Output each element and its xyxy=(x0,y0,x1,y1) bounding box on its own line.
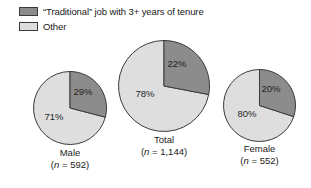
pie-caption-male-title: Male xyxy=(60,147,81,158)
legend-swatch-other xyxy=(19,22,38,31)
legend-swatch-traditional xyxy=(19,7,38,16)
pie-caption-total-n-value: = 1,144) xyxy=(149,146,187,157)
pie-label-total-traditional: 22% xyxy=(167,58,187,69)
pie-caption-female-title: Female xyxy=(244,143,276,154)
pie-caption-female-n-value: = 552) xyxy=(249,155,279,166)
legend-label-traditional: “Traditional” job with 3+ years of tenur… xyxy=(43,6,204,17)
pie-total-svg: 22% 78% xyxy=(118,40,210,132)
pie-caption-female-n: (n = 552) xyxy=(240,155,278,167)
pie-caption-female: Female (n = 552) xyxy=(240,143,278,167)
pie-chart-figure: “Traditional” job with 3+ years of tenur… xyxy=(0,0,311,188)
chart-legend: “Traditional” job with 3+ years of tenur… xyxy=(19,5,299,35)
legend-label-other: Other xyxy=(43,21,66,32)
pie-male-svg: 29% 71% xyxy=(33,71,107,145)
pie-caption-total-title: Total xyxy=(154,134,174,145)
pie-chart-female: 20% 80% Female (n = 552) xyxy=(223,69,296,142)
pie-caption-male: Male (n = 592) xyxy=(51,147,89,171)
pie-caption-total-n: (n = 1,144) xyxy=(141,146,187,158)
pie-chart-total: 22% 78% Total (n = 1,144) xyxy=(118,40,210,132)
legend-item-other: Other xyxy=(19,20,299,33)
pie-label-female-traditional: 20% xyxy=(261,83,281,94)
pie-female-svg: 20% 80% xyxy=(223,69,296,142)
pie-label-total-other: 78% xyxy=(135,88,155,99)
pie-caption-male-n: (n = 592) xyxy=(51,159,89,171)
pie-caption-total: Total (n = 1,144) xyxy=(141,134,187,158)
pie-label-male-other: 71% xyxy=(44,111,64,122)
pie-chart-male: 29% 71% Male (n = 592) xyxy=(33,71,107,145)
pie-caption-male-n-value: = 592) xyxy=(59,159,89,170)
legend-item-traditional: “Traditional” job with 3+ years of tenur… xyxy=(19,5,299,18)
pie-label-female-other: 80% xyxy=(237,108,257,119)
pie-label-male-traditional: 29% xyxy=(73,86,93,97)
